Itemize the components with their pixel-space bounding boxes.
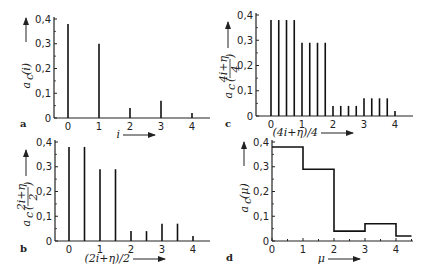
svg-text:a: a [238, 206, 251, 213]
svg-text:(i): (i) [20, 63, 33, 75]
x-tick-label: 3 [361, 119, 367, 130]
x-axis-label: μ [318, 252, 325, 265]
svg-text:(μ): (μ) [238, 183, 251, 199]
y-tick-label: 0,4 [237, 10, 253, 21]
x-tick-label: 4 [393, 244, 399, 255]
svg-text:c: c [225, 84, 238, 90]
y-axis-label: ac(i) [20, 18, 36, 89]
panel-label: a [20, 118, 27, 129]
svg-text:a: a [20, 220, 33, 227]
y-tick-label: 0,2 [35, 63, 51, 74]
y-tick-label: 0 [45, 113, 51, 124]
svg-text:c: c [23, 212, 36, 218]
y-tick-label: 0 [46, 236, 52, 247]
x-tick-label: 3 [362, 244, 368, 255]
y-tick-label: 0,3 [36, 161, 52, 172]
x-tick-label: 4 [190, 244, 196, 255]
panel-label: b [20, 243, 27, 254]
panel-b: 00,10,20,30,401234b(2i+η)/2ac(2i+η2) [15, 137, 210, 266]
x-tick-label: 2 [127, 121, 133, 132]
x-axis-label: (2i+η)/2 [84, 252, 130, 265]
panel-a: 00,10,20,30,401234aiac(i) [20, 14, 210, 142]
y-tick-label: 0,3 [35, 38, 51, 49]
y-tick-label: 0,1 [253, 211, 269, 222]
svg-text:a: a [20, 82, 33, 89]
panel-d: 00,10,20,30,401234dμac(μ) [226, 137, 413, 266]
y-tick-label: 0,4 [36, 137, 52, 148]
x-tick-label: 1 [96, 121, 102, 132]
x-axis-label: (4i+η)/4 [272, 126, 318, 139]
svg-text:4: 4 [229, 66, 242, 74]
x-tick-label: 2 [331, 244, 337, 255]
panel-label: d [226, 252, 233, 263]
y-tick-label: 0,4 [35, 14, 51, 25]
x-tick-label: 2 [330, 119, 336, 130]
svg-text:2: 2 [27, 194, 40, 202]
y-tick-label: 0 [247, 111, 253, 122]
x-tick-label: 3 [159, 244, 165, 255]
svg-text:): ) [224, 54, 237, 59]
x-tick-label: 3 [158, 121, 164, 132]
x-tick-label: 1 [300, 244, 306, 255]
step-line [272, 147, 412, 236]
y-tick-label: 0,1 [35, 88, 51, 99]
y-tick-label: 0,3 [237, 35, 253, 46]
x-tick-label: 0 [65, 121, 71, 132]
panel-label: c [225, 118, 231, 129]
x-tick-label: 4 [392, 119, 398, 130]
y-tick-label: 0,1 [237, 85, 253, 96]
y-axis-label: ac(μ) [238, 142, 254, 213]
figure: 00,10,20,30,401234aiac(i)00,10,20,30,401… [0, 0, 423, 275]
x-tick-label: 0 [66, 244, 72, 255]
x-tick-label: 0 [269, 244, 275, 255]
x-axis-label: i [116, 128, 120, 141]
y-tick-label: 0,4 [253, 137, 269, 148]
x-tick-label: 4 [189, 121, 195, 132]
y-tick-label: 0,2 [253, 186, 269, 197]
y-tick-label: 0,1 [36, 211, 52, 222]
y-tick-label: 0,3 [253, 161, 269, 172]
panel-c: 00,10,20,30,401234c(4i+η)/4ac(4i+η4) [217, 10, 413, 140]
svg-text:a: a [222, 92, 235, 99]
svg-text:): ) [22, 182, 35, 187]
